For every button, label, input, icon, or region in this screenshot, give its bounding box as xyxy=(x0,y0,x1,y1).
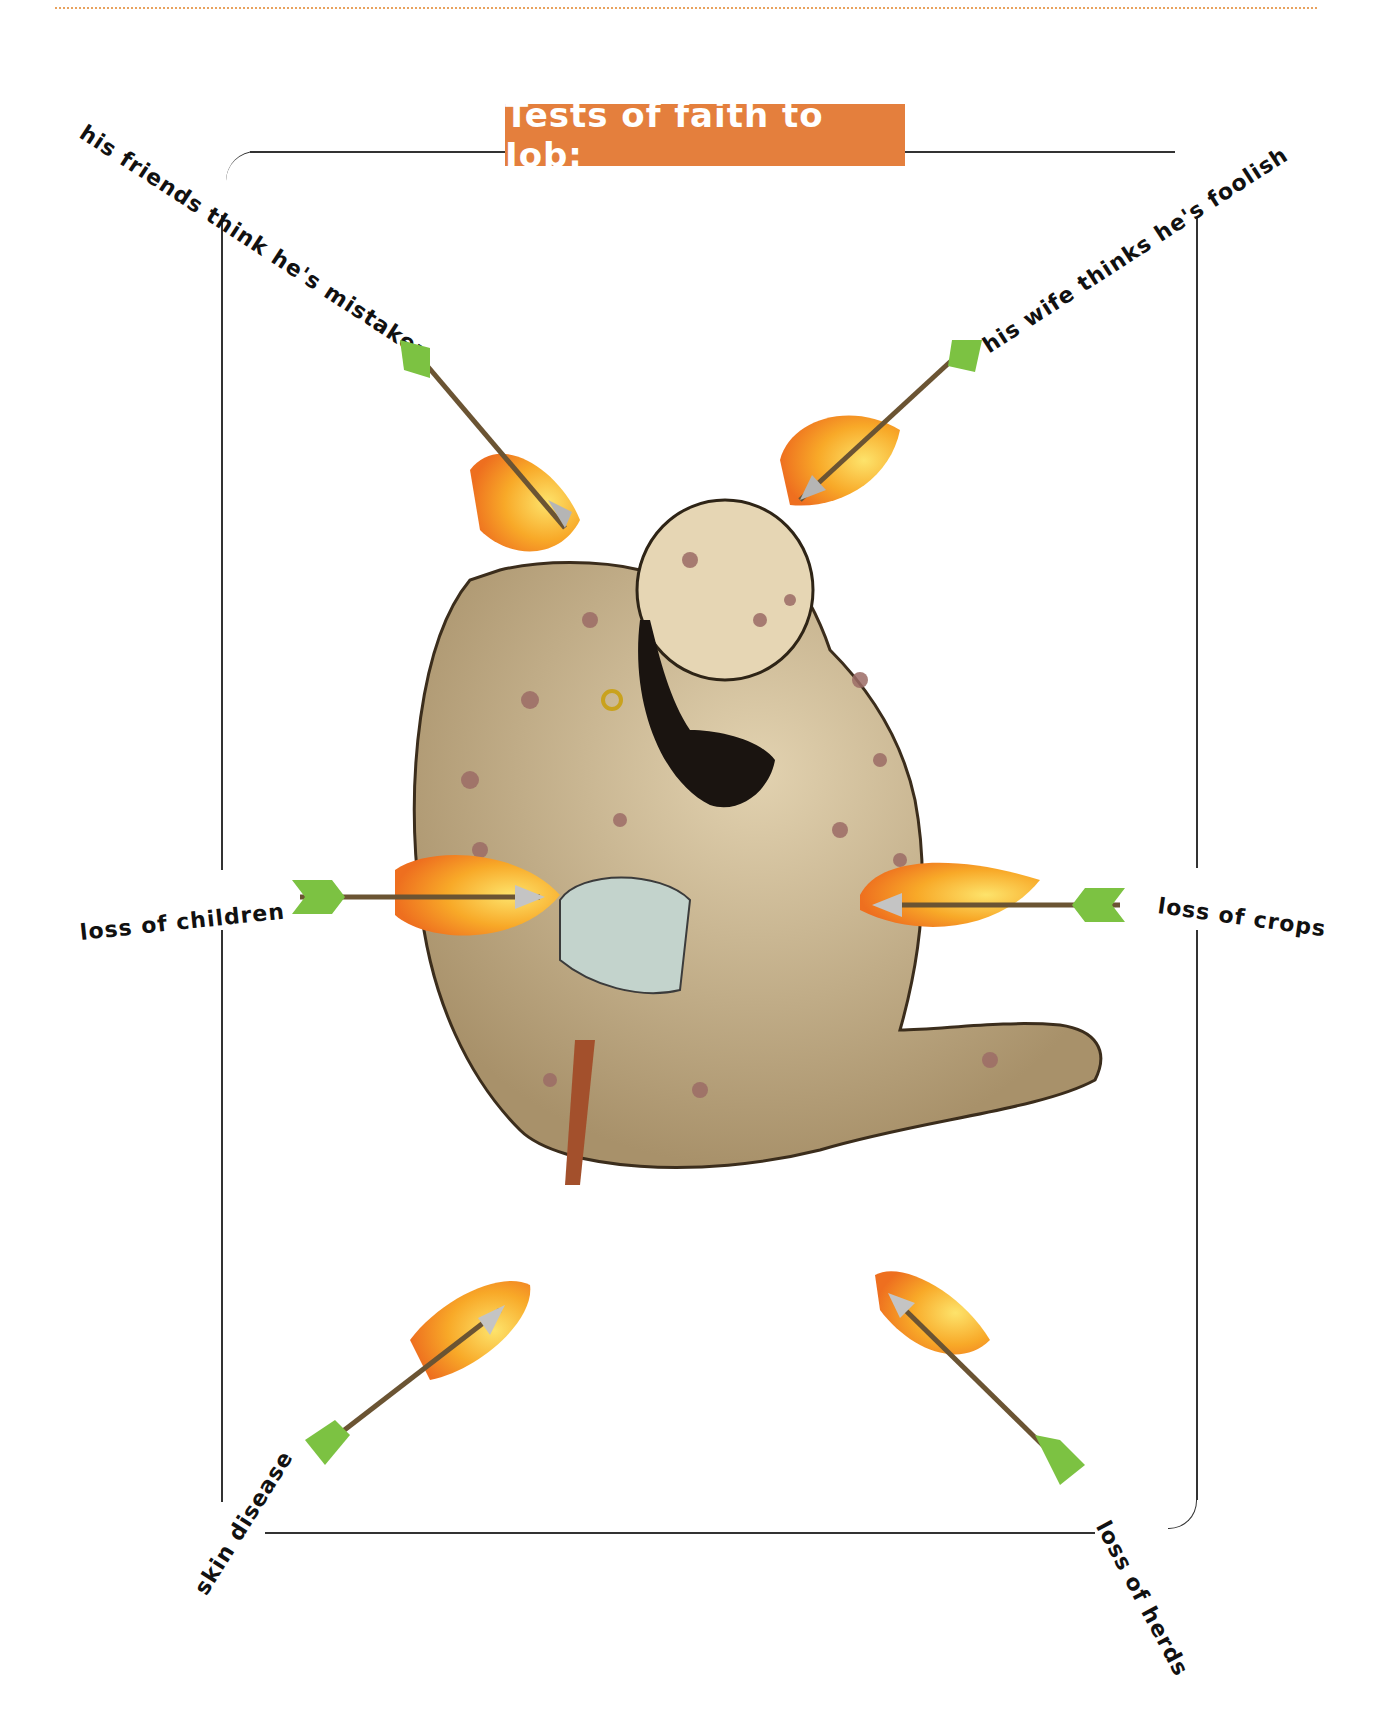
job-figure xyxy=(414,500,1100,1185)
arrow-crops xyxy=(860,863,1125,927)
job-illustration xyxy=(0,0,1394,1717)
arrow-herds xyxy=(875,1271,1085,1485)
arrow-wife xyxy=(780,340,982,506)
arrow-skin xyxy=(305,1281,530,1465)
arrow-friends xyxy=(400,340,580,551)
